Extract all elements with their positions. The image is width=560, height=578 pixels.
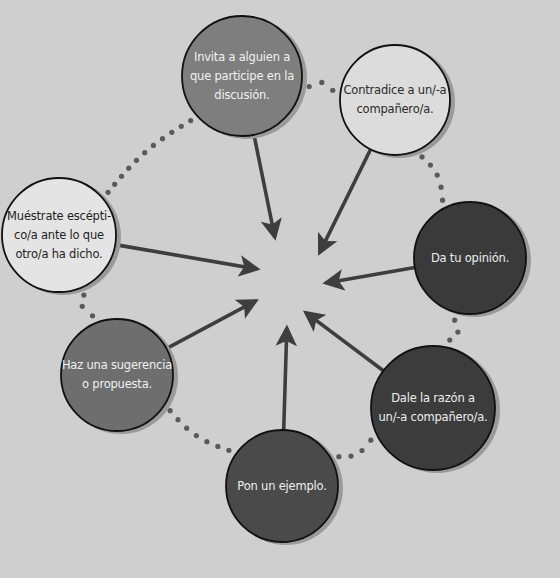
connector-dot bbox=[80, 304, 85, 309]
node-label-contradict: Contradice a un/-a compañero/a. bbox=[340, 45, 450, 155]
connector-dot bbox=[419, 154, 424, 159]
node-label-invite: Invita a alguien a que participe en la d… bbox=[182, 16, 302, 136]
connector-dot bbox=[215, 444, 220, 449]
connector-dot bbox=[134, 158, 139, 163]
connector-dot bbox=[428, 162, 433, 167]
connector-dot bbox=[194, 433, 199, 438]
connector-dot bbox=[435, 172, 440, 177]
connector-dot bbox=[184, 426, 189, 431]
connector-dot bbox=[359, 448, 364, 453]
arrow-invite bbox=[254, 135, 275, 237]
connector-dot bbox=[447, 337, 452, 342]
node-label-suggest: Haz una sugerencia o propuesta. bbox=[61, 319, 173, 431]
connector-dot bbox=[151, 143, 156, 148]
node-label-agree: Dale la razón a un/-a compañero/a. bbox=[371, 346, 495, 470]
connector-dot bbox=[438, 185, 443, 190]
connector-dot bbox=[126, 166, 131, 171]
node-label-opinion: Da tu opinión. bbox=[414, 202, 526, 314]
arrow-contradict bbox=[320, 149, 371, 252]
connector-dot bbox=[81, 292, 86, 297]
connector-dot bbox=[319, 80, 324, 85]
arrow-opinion bbox=[326, 268, 415, 283]
connector-dot bbox=[307, 84, 312, 89]
connector-dot bbox=[90, 313, 95, 318]
arrow-skeptic bbox=[115, 245, 257, 269]
connector-dot bbox=[204, 439, 209, 444]
connector-dot bbox=[119, 174, 124, 179]
arrow-example bbox=[284, 328, 287, 430]
connector-dot bbox=[348, 453, 353, 458]
connector-dot bbox=[175, 417, 180, 422]
connector-dot bbox=[142, 150, 147, 155]
arrow-suggest bbox=[166, 301, 255, 349]
connector-dot bbox=[455, 329, 460, 334]
connector-dot bbox=[330, 88, 335, 93]
connector-dot bbox=[169, 130, 174, 135]
connector-dot bbox=[160, 136, 165, 141]
connector-dot bbox=[452, 318, 457, 323]
node-label-skeptic: Muéstrate escépti- co/a ante lo que otro… bbox=[2, 178, 116, 292]
node-label-example: Pon un ejemplo. bbox=[226, 430, 338, 542]
